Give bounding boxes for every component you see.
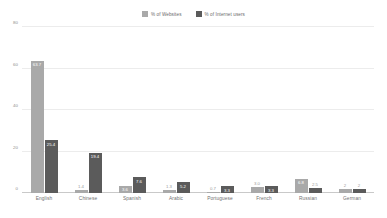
bar-value-label: 3.6 (122, 187, 128, 192)
plot-area: 020406080 63.725.41.419.43.67.61.35.20.7… (22, 27, 374, 193)
bar-wrapper: 25.4 (45, 27, 58, 193)
bar-group: 6.82.5 (286, 27, 330, 193)
bar-value-label: 3.3 (224, 188, 230, 193)
bar[interactable]: 3.3 (265, 186, 278, 193)
x-axis-labels: EnglishChineseSpanishArabicPortugueseFre… (22, 196, 374, 201)
bar-wrapper: 7.6 (133, 27, 146, 193)
bar[interactable]: 2 (339, 189, 352, 193)
x-axis-category-label: Arabic (154, 196, 198, 201)
legend-item[interactable]: % of Websites (142, 11, 182, 17)
bar[interactable]: 1.3 (163, 190, 176, 193)
bar-value-label: 0.7 (210, 186, 216, 191)
bar-group: 1.419.4 (66, 27, 110, 193)
bar-value-label: 2 (358, 183, 360, 188)
bar-wrapper: 1.4 (75, 27, 88, 193)
y-axis-tick-label: 0 (16, 186, 18, 191)
legend-label: % of Websites (151, 12, 182, 17)
bar[interactable]: 3.6 (119, 186, 132, 193)
bar-value-label: 1.4 (78, 184, 84, 189)
bar-value-label: 2.5 (312, 182, 318, 187)
y-axis-tick-label: 20 (13, 144, 18, 149)
x-axis-category-label: Russian (286, 196, 330, 201)
bar-groups: 63.725.41.419.43.67.61.35.20.73.33.03.36… (22, 27, 374, 193)
bar-value-label: 6.8 (298, 180, 304, 185)
bar-value-label: 7.6 (136, 179, 142, 184)
bar[interactable]: 7.6 (133, 177, 146, 193)
bar-wrapper: 1.3 (163, 27, 176, 193)
x-axis-category-label: Portuguese (198, 196, 242, 201)
bar-wrapper: 63.7 (31, 27, 44, 193)
bar-wrapper: 3.3 (265, 27, 278, 193)
legend-label: % of Internet users (205, 12, 245, 17)
x-axis-category-label: Spanish (110, 196, 154, 201)
bar-group: 3.03.3 (242, 27, 286, 193)
x-axis-category-label: German (330, 196, 374, 201)
bar-group: 0.73.3 (198, 27, 242, 193)
bar-group: 1.35.2 (154, 27, 198, 193)
bar-wrapper: 2 (353, 27, 366, 193)
bar-wrapper: 3.6 (119, 27, 132, 193)
legend-swatch-icon (142, 11, 148, 17)
bar-group: 3.67.6 (110, 27, 154, 193)
bar[interactable]: 3.0 (251, 187, 264, 193)
bar[interactable]: 3.3 (221, 186, 234, 193)
bar-value-label: 5.2 (180, 184, 186, 189)
bar[interactable]: 5.2 (177, 182, 190, 193)
bar-wrapper: 19.4 (89, 27, 102, 193)
y-axis-tick-label: 60 (13, 61, 18, 66)
x-axis-category-label: French (242, 196, 286, 201)
bar[interactable]: 0.7 (207, 192, 220, 193)
chart-legend: % of Websites% of Internet users (0, 8, 387, 20)
legend-item[interactable]: % of Internet users (196, 11, 245, 17)
x-axis-category-label: Chinese (66, 196, 110, 201)
bar-wrapper: 3.3 (221, 27, 234, 193)
bar[interactable]: 63.7 (31, 61, 44, 193)
bar-wrapper: 5.2 (177, 27, 190, 193)
bar-wrapper: 6.8 (295, 27, 308, 193)
bar-group: 22 (330, 27, 374, 193)
bar-value-label: 3.3 (268, 188, 274, 193)
bar-group: 63.725.4 (22, 27, 66, 193)
bar-value-label: 63.7 (33, 62, 42, 67)
bar-wrapper: 3.0 (251, 27, 264, 193)
bar-value-label: 2 (344, 183, 346, 188)
bar-value-label: 25.4 (47, 142, 56, 147)
bar[interactable]: 25.4 (45, 140, 58, 193)
bar[interactable]: 2.5 (309, 188, 322, 193)
bar[interactable]: 2 (353, 189, 366, 193)
bar[interactable]: 6.8 (295, 179, 308, 193)
x-axis-category-label: English (22, 196, 66, 201)
bar-value-label: 3.0 (254, 181, 260, 186)
bar-value-label: 1.3 (166, 184, 172, 189)
legend-swatch-icon (196, 11, 202, 17)
bar[interactable]: 1.4 (75, 190, 88, 193)
bar-wrapper: 2 (339, 27, 352, 193)
bar[interactable]: 19.4 (89, 153, 102, 193)
bar-value-label: 19.4 (91, 154, 100, 159)
y-axis-tick-label: 80 (13, 20, 18, 25)
bar-wrapper: 0.7 (207, 27, 220, 193)
bar-wrapper: 2.5 (309, 27, 322, 193)
y-axis-tick-label: 40 (13, 103, 18, 108)
bar-chart: % of Websites% of Internet users 0204060… (0, 0, 387, 218)
